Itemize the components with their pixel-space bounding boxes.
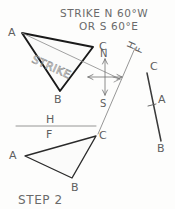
drawing-sheet: STRIKE N 60°W OR S 60°E STRIKE A C B N S xyxy=(0,0,175,209)
auxiliary-edge-view-line xyxy=(147,73,161,141)
auxiliary-label-b: B xyxy=(157,142,165,155)
front-view-vertex-label-b: B xyxy=(71,181,79,194)
front-view-triangle-face xyxy=(25,136,96,178)
auxiliary-point-a-tick xyxy=(148,104,156,106)
front-view-vertex-label-a: A xyxy=(9,149,17,162)
top-view-vertex-label-a: A xyxy=(8,26,16,39)
horizontal-fold-label-h: H xyxy=(46,113,54,126)
horizontal-fold-label-f: F xyxy=(46,128,52,141)
compass-south-label: S xyxy=(100,98,106,109)
strike-bearing-line-1: STRIKE N 60°W xyxy=(60,7,148,19)
top-view-vertex-label-b: B xyxy=(54,93,62,106)
diagonal-fold-line xyxy=(98,48,135,134)
diagonal-fold-label-f: F xyxy=(133,45,145,55)
auxiliary-label-c: C xyxy=(150,60,158,73)
front-view-vertex-label-c: C xyxy=(99,129,107,142)
strike-arrowhead-icon xyxy=(113,77,120,82)
figure-caption: STEP 2 xyxy=(18,193,63,207)
engineering-drawing-canvas: STRIKE N 60°W OR S 60°E STRIKE A C B N S xyxy=(0,0,175,209)
auxiliary-label-a: A xyxy=(158,93,166,106)
strike-bearing-line-2: OR S 60°E xyxy=(79,20,139,32)
compass-north-label: N xyxy=(100,48,107,59)
